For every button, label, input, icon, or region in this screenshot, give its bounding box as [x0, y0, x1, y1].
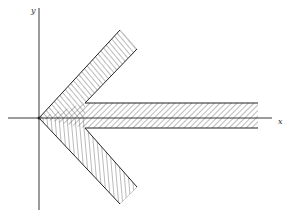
origin-point	[38, 117, 41, 120]
y-axis-label: y	[31, 6, 36, 15]
diagram: y x	[0, 0, 291, 218]
arrow-diagram	[0, 0, 291, 218]
x-axis-label: x	[278, 117, 283, 126]
